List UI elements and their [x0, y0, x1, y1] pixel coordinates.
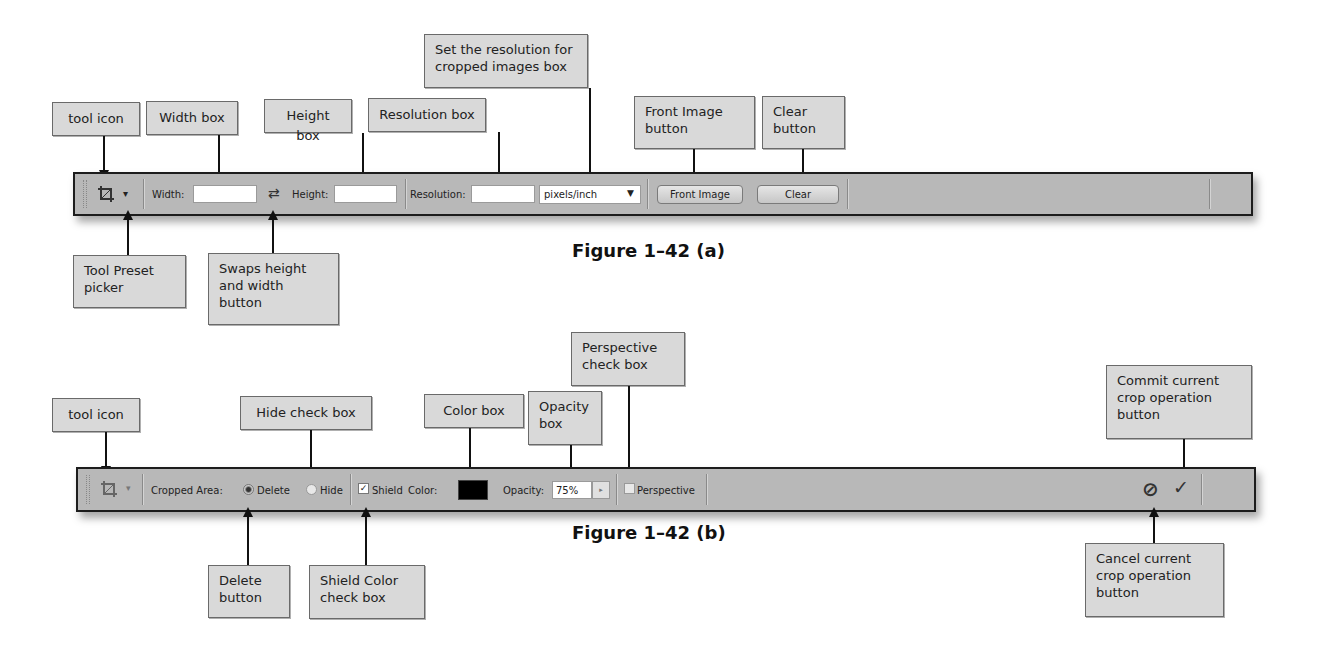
- connector: [247, 514, 249, 566]
- chevron-down-icon: ▼: [627, 188, 634, 198]
- callout-delete-button: Delete button: [208, 565, 290, 618]
- arrow-up-icon: [268, 210, 278, 220]
- tool-preset-picker[interactable]: ▾: [126, 483, 131, 493]
- arrow-up-icon: [123, 210, 133, 220]
- opacity-input[interactable]: 75%: [552, 481, 592, 499]
- separator: [1201, 474, 1203, 505]
- perspective-label: Perspective: [637, 485, 695, 496]
- crop-icon[interactable]: [100, 480, 118, 498]
- callout-tool-icon-b: tool icon: [52, 398, 140, 432]
- swap-icon[interactable]: ⇄: [268, 185, 280, 201]
- cancel-icon[interactable]: ⊘: [1142, 477, 1159, 501]
- callout-shield-color-check-box: Shield Color check box: [309, 565, 425, 619]
- separator: [405, 179, 407, 209]
- cropped-area-label: Cropped Area:: [151, 485, 223, 496]
- callout-clear: Clear button: [762, 96, 845, 149]
- callout-swap-button: Swaps height and width button: [208, 253, 339, 325]
- figure-caption-b: Figure 1–42 (b): [572, 522, 726, 543]
- callout-resolution-box: Resolution box: [368, 98, 486, 132]
- separator: [1209, 179, 1211, 209]
- callout-hide-check-box: Hide check box: [240, 396, 372, 430]
- connector: [127, 218, 129, 255]
- delete-radio[interactable]: [243, 484, 254, 495]
- toolbar-grip[interactable]: [86, 475, 90, 504]
- crop-options-bar-b: ▾ Cropped Area: Delete Hide ✓ Shield Col…: [76, 467, 1256, 512]
- connector: [1153, 514, 1155, 544]
- crop-options-bar-a: ▾ Width: ⇄ Height: Resolution: pixels/in…: [73, 172, 1253, 216]
- crop-icon[interactable]: [97, 185, 115, 203]
- connector: [628, 386, 630, 479]
- shield-checkbox[interactable]: ✓: [358, 483, 369, 494]
- resolution-unit-select[interactable]: pixels/inch ▼: [539, 185, 641, 204]
- connector: [105, 432, 107, 467]
- resolution-input[interactable]: [471, 185, 535, 203]
- height-label: Height:: [292, 189, 328, 200]
- figure-caption-a: Figure 1–42 (a): [572, 240, 725, 261]
- callout-resolution-unit: Set the resolution for cropped images bo…: [424, 34, 588, 88]
- callout-commit-button: Commit current crop operation button: [1106, 365, 1252, 439]
- width-label: Width:: [152, 189, 184, 200]
- separator: [647, 179, 649, 209]
- separator: [143, 179, 145, 209]
- perspective-checkbox[interactable]: [624, 483, 635, 494]
- callout-front-image: Front Image button: [634, 96, 755, 149]
- callout-cancel-button: Cancel current crop operation button: [1085, 543, 1224, 617]
- shield-label: Shield: [372, 485, 403, 496]
- hide-radio[interactable]: [306, 484, 317, 495]
- callout-color-box: Color box: [424, 394, 524, 428]
- callout-height-box: Height box: [264, 99, 352, 133]
- arrow-up-icon: [1149, 507, 1159, 517]
- tool-preset-picker[interactable]: ▾: [123, 188, 128, 199]
- callout-perspective-check-box: Perspective check box: [571, 332, 685, 386]
- color-label: Color:: [408, 485, 437, 496]
- separator: [616, 474, 618, 505]
- toolbar-grip[interactable]: [83, 180, 87, 208]
- commit-icon[interactable]: ✓: [1173, 476, 1189, 498]
- arrow-up-icon: [243, 507, 253, 517]
- arrow-up-icon: [361, 507, 371, 517]
- separator: [706, 474, 708, 505]
- delete-label: Delete: [257, 485, 290, 496]
- connector: [365, 514, 367, 566]
- connector: [272, 218, 274, 254]
- callout-width-box: Width box: [146, 101, 238, 135]
- clear-button[interactable]: Clear: [757, 185, 839, 204]
- connector: [589, 88, 591, 184]
- connector: [103, 136, 105, 171]
- front-image-button[interactable]: Front Image: [657, 185, 743, 204]
- height-input[interactable]: [334, 185, 397, 203]
- shield-color-swatch[interactable]: [458, 480, 488, 500]
- separator: [847, 179, 849, 209]
- separator: [350, 474, 352, 505]
- separator: [142, 474, 144, 505]
- callout-tool-preset-picker: Tool Preset picker: [73, 255, 186, 308]
- opacity-label: Opacity:: [503, 485, 544, 496]
- callout-opacity-box: Opacity box: [528, 391, 602, 445]
- width-input[interactable]: [193, 185, 257, 203]
- callout-tool-icon-a: tool icon: [52, 102, 140, 136]
- resolution-label: Resolution:: [410, 189, 466, 200]
- opacity-slider-button[interactable]: ▸: [592, 481, 610, 499]
- hide-label: Hide: [320, 485, 343, 496]
